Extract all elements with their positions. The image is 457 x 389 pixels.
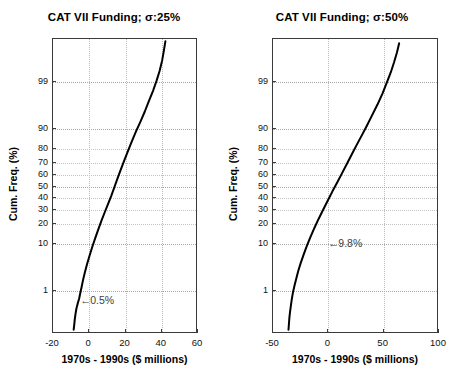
y-tick <box>52 81 56 82</box>
x-tick <box>383 329 384 333</box>
x-tick <box>52 329 53 333</box>
chart-title-right: CAT VII Funding; σ:50% <box>228 11 456 23</box>
y-axis-label-right: Cum. Freq. (%) <box>226 36 238 331</box>
y-tick-label: 1 <box>246 285 268 295</box>
x-axis-label-left: 1970s - 1990s ($ millions) <box>52 353 197 365</box>
y-tick <box>272 148 276 149</box>
y-tick <box>272 174 276 175</box>
figure-root: CAT VII Funding; σ:25% 1970s - 1990s ($ … <box>0 0 457 389</box>
y-tick-label: 80 <box>246 143 268 153</box>
y-tick-label: 50 <box>246 181 268 191</box>
y-axis-label-left: Cum. Freq. (%) <box>6 36 18 331</box>
y-tick-label: 90 <box>246 123 268 133</box>
y-tick-label: 90 <box>26 123 48 133</box>
y-tick-label: 80 <box>26 143 48 153</box>
x-tick-label: 60 <box>192 337 203 348</box>
y-tick <box>52 243 56 244</box>
x-tick <box>327 329 328 333</box>
y-tick <box>272 223 276 224</box>
plot-area-right <box>272 38 438 333</box>
y-tick <box>52 223 56 224</box>
x-axis-label-right: 1970s - 1990s ($ millions) <box>272 353 438 365</box>
x-tick-label: -50 <box>265 337 279 348</box>
y-tick <box>272 186 276 187</box>
y-tick <box>52 186 56 187</box>
annotation-label: 0.5% <box>90 294 114 306</box>
y-tick-label: 1 <box>26 285 48 295</box>
chart-panel-left: CAT VII Funding; σ:25% 1970s - 1990s ($ … <box>0 0 228 389</box>
y-tick-label: 99 <box>26 76 48 86</box>
data-series-curve <box>273 39 438 333</box>
y-tick <box>272 290 276 291</box>
annotation-label: 9.8% <box>338 237 362 249</box>
x-tick-label: 0 <box>86 337 91 348</box>
y-tick-label: 30 <box>26 204 48 214</box>
x-tick <box>438 329 439 333</box>
series-line <box>288 43 399 329</box>
y-tick <box>272 81 276 82</box>
y-tick <box>272 197 276 198</box>
x-tick <box>125 329 126 333</box>
y-tick <box>272 243 276 244</box>
chart-title-left: CAT VII Funding; σ:25% <box>0 11 228 23</box>
x-tick-label: 50 <box>377 337 388 348</box>
y-tick <box>272 209 276 210</box>
y-tick <box>52 162 56 163</box>
y-tick-label: 30 <box>246 204 268 214</box>
y-tick <box>272 162 276 163</box>
x-tick <box>272 329 273 333</box>
y-tick <box>52 148 56 149</box>
plot-area-left <box>52 38 197 333</box>
y-tick <box>52 128 56 129</box>
y-tick-label: 10 <box>26 238 48 248</box>
y-tick-label: 60 <box>246 169 268 179</box>
y-tick-label: 99 <box>246 76 268 86</box>
y-tick <box>52 174 56 175</box>
x-tick <box>161 329 162 333</box>
y-tick-label: 70 <box>246 157 268 167</box>
x-tick-label: 100 <box>430 337 446 348</box>
y-tick <box>52 209 56 210</box>
x-tick-label: -20 <box>45 337 59 348</box>
y-tick-label: 40 <box>246 192 268 202</box>
series-line <box>74 41 166 329</box>
y-tick-label: 20 <box>246 218 268 228</box>
x-tick <box>88 329 89 333</box>
y-tick-label: 10 <box>246 238 268 248</box>
x-tick-label: 0 <box>325 337 330 348</box>
y-tick-label: 20 <box>26 218 48 228</box>
x-tick <box>197 329 198 333</box>
x-tick-label: 20 <box>119 337 130 348</box>
y-tick-label: 50 <box>26 181 48 191</box>
y-tick-label: 60 <box>26 169 48 179</box>
y-tick <box>52 197 56 198</box>
y-tick <box>272 128 276 129</box>
y-tick <box>52 290 56 291</box>
y-tick-label: 40 <box>26 192 48 202</box>
chart-panel-right: CAT VII Funding; σ:50% 1970s - 1990s ($ … <box>228 0 456 389</box>
x-tick-label: 40 <box>155 337 166 348</box>
data-series-curve <box>53 39 197 333</box>
y-tick-label: 70 <box>26 157 48 167</box>
